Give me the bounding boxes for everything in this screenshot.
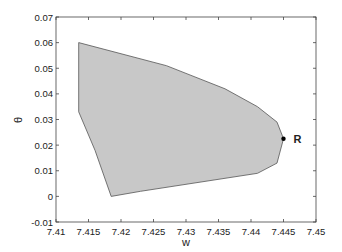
region-polygon xyxy=(79,43,284,197)
y-axis-label: θ xyxy=(12,117,24,123)
y-tick-label: 0.06 xyxy=(35,37,54,48)
y-tick-label: 0.04 xyxy=(35,88,54,99)
x-tick-label: 7.44 xyxy=(242,226,261,237)
x-axis-label: w xyxy=(181,236,190,248)
y-tick-label: 0.07 xyxy=(35,12,54,23)
x-tick-label: 7.45 xyxy=(307,226,326,237)
x-tick-label: 7.41 xyxy=(47,226,66,237)
y-tick-label: 0.02 xyxy=(35,140,54,151)
point-r-label: R xyxy=(294,133,302,145)
y-tick-label: 0.05 xyxy=(35,63,54,74)
x-tick-label: 7.415 xyxy=(77,226,101,237)
x-tick-label: 7.42 xyxy=(112,226,131,237)
y-tick-label: -0.01 xyxy=(31,217,53,228)
x-tick-label: 7.445 xyxy=(272,226,296,237)
y-tick-label: 0 xyxy=(48,191,53,202)
x-tick-label: 7.435 xyxy=(207,226,231,237)
y-tick-label: 0.01 xyxy=(35,165,54,176)
plot-area: R xyxy=(79,43,302,197)
point-r-marker xyxy=(281,137,285,141)
y-tick-label: 0.03 xyxy=(35,114,54,125)
x-tick-label: 7.425 xyxy=(142,226,166,237)
chart: R 7.417.4157.427.4257.437.4357.447.4457.… xyxy=(0,0,342,252)
